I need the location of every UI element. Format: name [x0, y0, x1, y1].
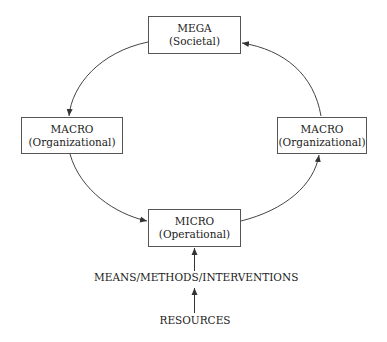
node-title: MICRO	[175, 215, 214, 228]
node-macro-organizational-left: MACRO (Organizational)	[21, 117, 123, 154]
node-title: MACRO	[301, 123, 344, 136]
node-micro-operational: MICRO (Operational)	[148, 209, 241, 247]
node-macro-organizational-right: MACRO (Organizational)	[277, 117, 367, 154]
arrow-macro-left-to-micro	[70, 154, 147, 221]
arrow-mega-to-macro-left	[69, 42, 148, 116]
node-subtitle: (Organizational)	[29, 136, 116, 149]
arrow-micro-to-macro-right	[241, 155, 319, 221]
node-title: MACRO	[51, 123, 94, 136]
node-mega-societal: MEGA (Societal)	[148, 16, 241, 54]
node-subtitle: (Operational)	[159, 228, 230, 241]
results-chain-diagram: MEGA (Societal) MACRO (Organizational) M…	[0, 0, 387, 342]
label-resources: RESOURCES	[154, 314, 236, 327]
node-title: MEGA	[177, 22, 211, 35]
node-subtitle: (Organizational)	[279, 136, 366, 149]
node-subtitle: (Societal)	[169, 35, 220, 48]
arrow-macro-right-to-mega	[242, 43, 321, 116]
label-means-methods-interventions: MEANS/METHODS/INTERVENTIONS	[94, 271, 296, 284]
